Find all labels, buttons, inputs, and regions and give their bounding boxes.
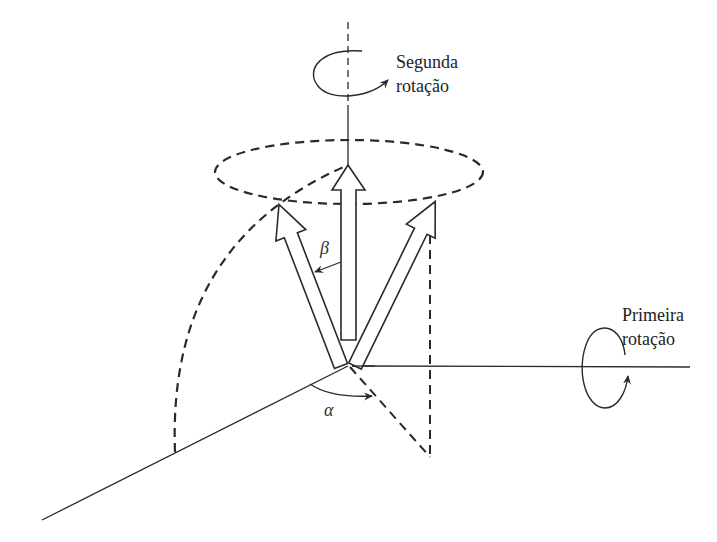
center-arrow: [332, 165, 365, 340]
alpha-label: α: [324, 400, 333, 421]
first-rotation-line1: Primeira: [622, 303, 684, 327]
diagram-svg: [0, 0, 717, 542]
second-rotation-icon: [313, 51, 388, 96]
second-rotation-line2: rotação: [396, 74, 458, 98]
alpha-angle-arc: [310, 384, 372, 396]
right-arrow: [341, 195, 450, 374]
first-rotation-label: Primeira rotação: [622, 303, 684, 351]
beta-angle-arrow: [315, 262, 341, 272]
second-rotation-label: Segunda rotação: [396, 50, 458, 98]
projection-diagonal: [350, 367, 430, 457]
rotation-diagram: Segunda rotação Primeira rotação β α: [0, 0, 717, 542]
oblique-axis: [42, 366, 348, 520]
beta-label: β: [320, 238, 329, 259]
horizontal-axis: [352, 366, 690, 367]
second-rotation-line1: Segunda: [396, 50, 458, 74]
first-rotation-line2: rotação: [622, 327, 684, 351]
